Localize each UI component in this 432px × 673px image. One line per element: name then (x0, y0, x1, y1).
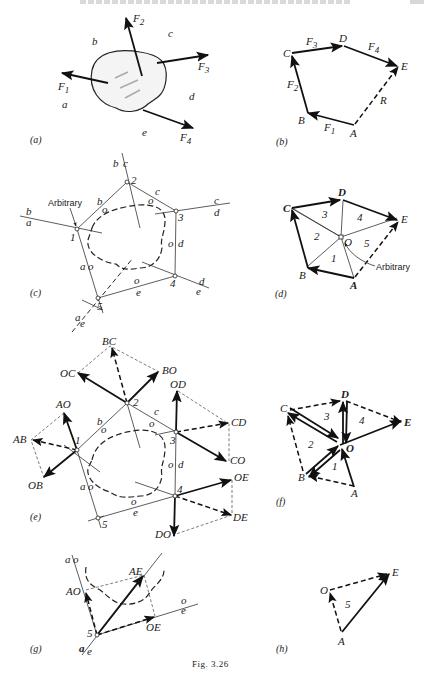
node-label-3: 3 (177, 211, 184, 223)
label-o-51-e: o (88, 480, 94, 492)
label-e-right-g: e (181, 604, 186, 616)
body-outline-dashed (88, 205, 165, 269)
line-4-stub (135, 482, 176, 496)
node-label-4: 4 (170, 277, 176, 289)
component-oe (175, 480, 231, 496)
label-o-34-e: o (168, 458, 174, 470)
annotation-pointer-c (70, 208, 76, 226)
panel-f-component-polygon: A B C D E O 1 2 3 4 (f) (276, 388, 411, 508)
funicular-polygon-e (77, 403, 176, 518)
vector-ab (308, 268, 354, 278)
label-bo: BO (162, 364, 177, 376)
f-vector-co (290, 408, 338, 438)
label-a-ab: a (26, 216, 32, 228)
point-a-h: A (337, 635, 345, 647)
label-d-3-4: d (178, 237, 184, 249)
label-ao-g: AO (65, 585, 81, 597)
body-outline-dashed-e (88, 430, 165, 497)
label-d-cd: d (214, 206, 220, 218)
point-e: E (400, 60, 408, 72)
space-e: e (142, 126, 147, 138)
triangle-3: 3 (321, 208, 328, 220)
label-c-cd: c (214, 194, 219, 206)
triangle-4: 4 (357, 211, 363, 223)
parallelogram-2 (78, 346, 159, 373)
label-o-12-e: o (101, 423, 107, 435)
point-c-d: C (283, 202, 291, 214)
caption-f: (f) (276, 496, 286, 508)
f-triangle-2: 2 (308, 438, 314, 450)
panel-h-triangle-5: A O E 5 (h) (276, 566, 399, 655)
caption-a: (a) (30, 134, 42, 146)
caption-d: (d) (275, 288, 287, 300)
node-2 (125, 180, 129, 184)
space-a: a (62, 98, 68, 110)
label-o-1-2: o (102, 203, 108, 215)
vector-f1 (308, 113, 354, 125)
node-2-e (125, 401, 129, 405)
label-vector-f4: F4 (367, 40, 380, 55)
component-cd (176, 423, 228, 432)
space-b: b (92, 35, 98, 47)
component-do (174, 496, 175, 536)
point-o-d: O (344, 236, 352, 248)
f-triangle-4: 4 (359, 414, 365, 426)
annotation-arbitrary-d: Arbitrary (376, 262, 411, 272)
point-e-d: E (400, 213, 408, 225)
caption-c: (c) (30, 287, 42, 299)
label-f3: F3 (197, 60, 210, 75)
caption-g: (g) (30, 643, 42, 655)
annotation-arbitrary-c: Arbitrary (48, 198, 83, 208)
f-triangle-1: 1 (332, 460, 338, 472)
label-ao: AO (55, 398, 71, 410)
component-de (175, 496, 231, 515)
figure-3-26: F1 F2 F3 F4 a b c d e (a) A B C D E F1 F… (0, 0, 432, 673)
label-ab: AB (12, 433, 27, 445)
triangle-5: 5 (364, 237, 370, 249)
node-1-e (75, 448, 79, 452)
node-label-2: 2 (131, 174, 137, 186)
node-label-3-e: 3 (169, 434, 176, 446)
label-d-e: d (178, 458, 184, 470)
panel-a-free-body: F1 F2 F3 F4 a b c d e (a) (30, 12, 210, 146)
node-label-1-e: 1 (75, 434, 81, 446)
panel-c-funicular: 1 2 3 4 5 Arbitrary b a b c c d d e a e … (20, 153, 230, 332)
point-e-h: E (391, 566, 399, 578)
label-o-23-e: o (149, 417, 155, 429)
node-label-5: 5 (97, 300, 103, 312)
label-oe-g: OE (146, 621, 161, 633)
label-ae-g: AE (128, 565, 143, 577)
caption-e: (e) (30, 511, 42, 523)
component-ab (33, 440, 77, 450)
point-d-d: D (337, 186, 346, 198)
f-triangle-3: 3 (323, 410, 330, 422)
h-vector-ao (330, 593, 341, 631)
point-a: A (349, 127, 357, 139)
label-bc: BC (102, 335, 117, 347)
point-c: C (283, 47, 291, 59)
point-e-f: E (403, 416, 411, 428)
label-vector-f1: F1 (323, 121, 335, 136)
component-bo (127, 372, 158, 403)
component-od (176, 391, 177, 432)
panel-d-ray-polygon: A B C D E O 1 2 3 4 5 Arbitrary (d) (275, 186, 411, 300)
label-resultant: R (379, 94, 387, 106)
label-oe: OE (234, 471, 249, 483)
point-b: B (298, 114, 305, 126)
label-de: DE (232, 511, 248, 523)
node-5-e (96, 516, 100, 520)
parallelogram-g (86, 575, 155, 616)
triangle-1: 1 (331, 252, 337, 264)
point-d-f: D (340, 388, 349, 400)
h-triangle-5: 5 (345, 598, 351, 610)
label-c-e: c (154, 405, 159, 417)
point-o-f: O (346, 442, 354, 454)
label-o-top-g: o (73, 553, 79, 565)
point-a-d: A (349, 279, 357, 291)
node-label-4-e: 4 (177, 483, 183, 495)
label-o-4-5: o (134, 274, 140, 286)
label-a-5-1: a (80, 260, 86, 272)
label-e-ae: e (80, 317, 85, 329)
label-vector-f2: F2 (286, 78, 299, 93)
label-f4: F4 (179, 131, 192, 146)
